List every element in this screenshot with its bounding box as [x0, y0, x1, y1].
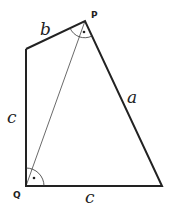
angle-arc-q [26, 168, 44, 186]
quadrilateral-outline [26, 21, 162, 186]
vertex-label-q: Q [13, 190, 21, 200]
angle-dot-p [83, 31, 86, 34]
quadrilateral-diagram: b a c c P Q [0, 0, 171, 211]
edge-label-b: b [40, 19, 51, 39]
angle-dot-q [33, 177, 36, 180]
edge-label-a: a [127, 87, 137, 107]
edge-label-c-bottom: c [85, 187, 95, 207]
diagram-svg: b a c c P Q [0, 0, 171, 211]
vertex-label-p: P [91, 10, 98, 20]
edge-label-c-left: c [7, 107, 17, 127]
